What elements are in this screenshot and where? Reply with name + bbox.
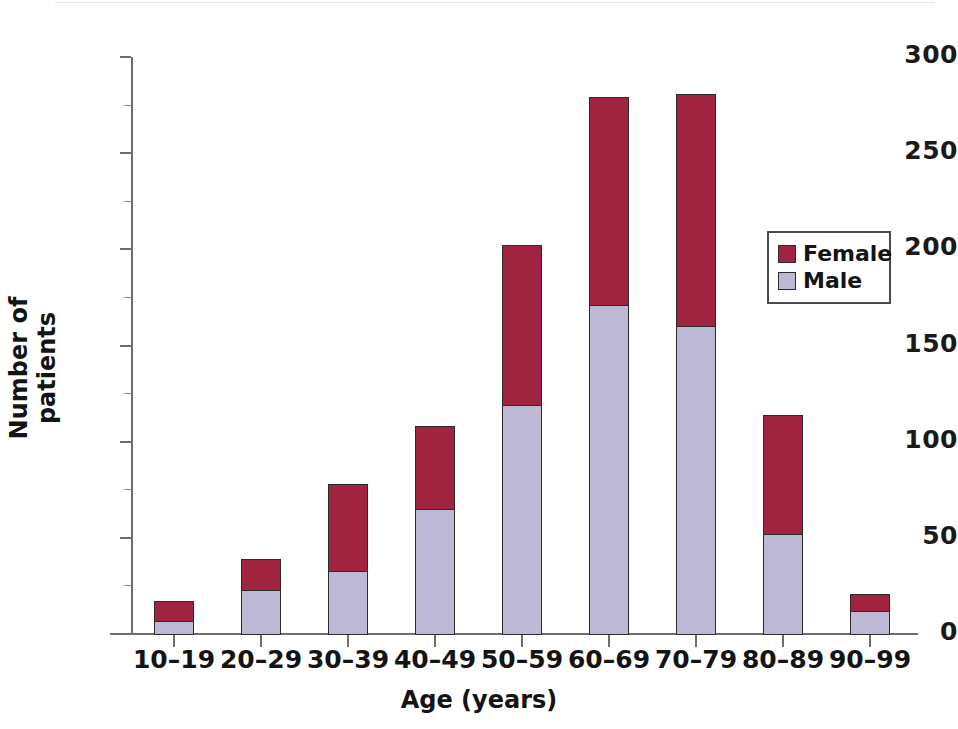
- y-tick-minor-175: [124, 297, 131, 298]
- legend-swatch-female-icon: [778, 245, 796, 263]
- y-tick-100: [120, 441, 131, 443]
- y-tick-0: [120, 633, 131, 635]
- legend-label-male: Male: [803, 270, 862, 292]
- y-tick-minor-225: [124, 201, 131, 202]
- y-tick-label-50: 50: [846, 521, 958, 550]
- y-tick-minor-75: [124, 489, 131, 490]
- y-tick-200: [120, 248, 131, 250]
- bar-segment-female-60–69[interactable]: [589, 97, 629, 306]
- bar-segment-female-80–89[interactable]: [763, 415, 803, 535]
- y-tick-minor-25: [124, 585, 131, 586]
- bar-segment-male-10–19[interactable]: [154, 621, 194, 635]
- chart-legend: Female Male: [767, 231, 891, 304]
- y-tick-label-250: 250: [846, 136, 958, 165]
- bar-segment-male-70–79[interactable]: [676, 326, 716, 635]
- legend-label-female: Female: [803, 243, 892, 265]
- bar-segment-female-40–49[interactable]: [415, 426, 455, 510]
- bar-segment-male-40–49[interactable]: [415, 509, 455, 635]
- bar-segment-male-30–39[interactable]: [328, 571, 368, 635]
- y-axis-title: Number of patients: [5, 238, 61, 498]
- legend-swatch-male-icon: [778, 272, 796, 290]
- bar-segment-male-80–89[interactable]: [763, 534, 803, 635]
- legend-item-male[interactable]: Male: [778, 267, 880, 294]
- y-tick-50: [120, 537, 131, 539]
- scan-artifact-line: [55, 2, 935, 3]
- bar-segment-female-20–29[interactable]: [241, 559, 281, 591]
- y-tick-minor-125: [124, 393, 131, 394]
- y-tick-label-300: 300: [846, 40, 958, 69]
- bar-segment-male-50–59[interactable]: [502, 405, 542, 635]
- bar-segment-male-20–29[interactable]: [241, 590, 281, 635]
- bar-segment-male-90–99[interactable]: [850, 611, 890, 635]
- x-axis-title: Age (years): [0, 686, 958, 714]
- bar-segment-female-50–59[interactable]: [502, 245, 542, 406]
- y-tick-label-150: 150: [846, 329, 958, 358]
- bar-segment-female-90–99[interactable]: [850, 594, 890, 612]
- chart-figure: 050100150200250300 10–1920–2930–3940–495…: [0, 0, 958, 729]
- bar-segment-female-30–39[interactable]: [328, 484, 368, 572]
- y-tick-minor-275: [124, 105, 131, 106]
- y-axis-line: [131, 57, 133, 635]
- y-tick-250: [120, 152, 131, 154]
- legend-item-female[interactable]: Female: [778, 240, 880, 267]
- bar-segment-male-60–69[interactable]: [589, 305, 629, 635]
- y-tick-150: [120, 345, 131, 347]
- bar-segment-female-10–19[interactable]: [154, 601, 194, 621]
- x-tick-label-90–99: 90–99: [810, 645, 930, 674]
- bar-segment-female-70–79[interactable]: [676, 94, 716, 328]
- y-tick-300: [120, 56, 131, 58]
- y-tick-label-100: 100: [846, 425, 958, 454]
